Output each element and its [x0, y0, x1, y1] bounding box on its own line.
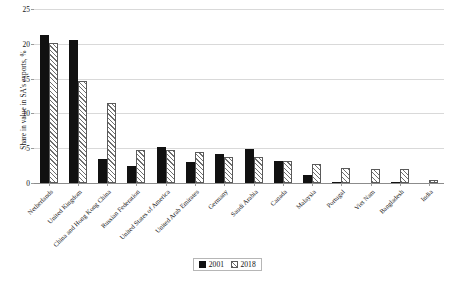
plot-area: 0510152025	[34, 9, 444, 183]
bar-group	[385, 9, 414, 183]
y-tick-label: 0	[26, 179, 30, 188]
bar-group	[268, 9, 297, 183]
bar-group	[415, 9, 444, 183]
y-tick-mark	[31, 183, 34, 184]
bar-2018	[224, 157, 233, 183]
bar-2018	[166, 150, 175, 183]
x-axis-label: Netherlands	[26, 188, 54, 216]
y-tick-label: 25	[23, 5, 30, 14]
bar-groups	[34, 9, 444, 183]
x-label-cell: Saudi Arabia	[239, 186, 268, 246]
x-axis-category-labels: NetherlandsUnited KingdomChina and Hong …	[34, 186, 444, 246]
x-label-cell: Portugal	[327, 186, 356, 246]
bar-2001	[215, 154, 224, 183]
bar-2001	[332, 182, 341, 183]
x-label-cell: Bangladesh	[385, 186, 414, 246]
legend: 20012018	[0, 258, 455, 271]
bar-2001	[127, 166, 136, 183]
bar-group	[210, 9, 239, 183]
legend-label: 2001	[209, 260, 224, 269]
bar-group	[93, 9, 122, 183]
bar-2018	[341, 168, 350, 183]
bar-group	[327, 9, 356, 183]
x-axis-label: Portugal	[325, 188, 346, 209]
bar-2001	[98, 159, 107, 183]
legend-swatch	[231, 261, 238, 268]
bar-2001	[40, 35, 49, 183]
bar-2001	[303, 175, 312, 183]
bar-2001	[157, 147, 166, 183]
bar-2001	[69, 40, 78, 183]
bar-2018	[107, 103, 116, 183]
bar-2001	[245, 149, 254, 183]
bar-group	[356, 9, 385, 183]
legend-item-2018: 2018	[231, 260, 256, 269]
bar-group	[34, 9, 63, 183]
bar-group	[63, 9, 92, 183]
bar-2018	[312, 164, 321, 183]
x-axis-label: India	[420, 188, 435, 203]
x-label-cell: Malaysia	[298, 186, 327, 246]
bar-2018	[49, 43, 58, 183]
bar-2001	[391, 182, 400, 183]
x-axis-label: Germany	[207, 188, 230, 211]
bar-2001	[274, 161, 283, 183]
y-tick-label: 15	[23, 74, 30, 83]
bar-2018	[429, 180, 438, 183]
bar-2018	[78, 81, 87, 183]
x-label-cell: Viet Nam	[356, 186, 385, 246]
bar-2018	[254, 157, 263, 183]
x-label-cell: Canada	[268, 186, 297, 246]
y-tick-label: 20	[23, 39, 30, 48]
bar-group	[239, 9, 268, 183]
x-axis-label: Malaysia	[295, 188, 317, 210]
y-tick-label: 5	[26, 144, 30, 153]
bar-2018	[283, 161, 292, 183]
x-label-cell: India	[415, 186, 444, 246]
x-axis-label: Canada	[269, 188, 288, 207]
x-label-cell: United Arab Emirates	[180, 186, 209, 246]
legend-box: 20012018	[193, 258, 261, 271]
bar-2018	[195, 152, 204, 183]
bar-2018	[371, 169, 380, 183]
y-tick-label: 10	[23, 109, 30, 118]
bar-group	[151, 9, 180, 183]
legend-item-2001: 2001	[199, 260, 224, 269]
bar-2001	[186, 162, 195, 183]
bar-2018	[400, 169, 409, 183]
x-axis-label: Viet Nam	[352, 188, 375, 211]
bar-group	[122, 9, 151, 183]
x-axis-line	[34, 183, 444, 184]
bar-group	[180, 9, 209, 183]
legend-label: 2018	[241, 260, 256, 269]
bar-group	[298, 9, 327, 183]
bar-chart-figure: Share in value in SA's exports, % 051015…	[0, 0, 455, 285]
bar-2018	[136, 150, 145, 183]
legend-swatch	[199, 261, 206, 268]
